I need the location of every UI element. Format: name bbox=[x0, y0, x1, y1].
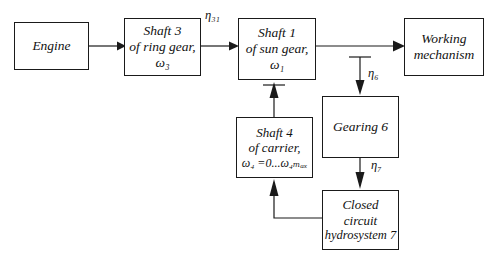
shaft-4-label-line-2: of carrier, bbox=[249, 140, 301, 155]
shaft-1-label-line-2: of sun gear, bbox=[246, 41, 309, 57]
link-hydrosystem-7-to-shaft-4 bbox=[270, 179, 323, 218]
gearing-6-label-line-1: Gearing 6 bbox=[333, 119, 388, 135]
gearing-6: Gearing 6 bbox=[322, 96, 399, 158]
link-shaft-1-to-working-mechanism bbox=[316, 41, 405, 52]
shaft-1-label-line-3: ω₁ bbox=[270, 57, 284, 73]
efficiency-eta-7-label: η₇ bbox=[371, 158, 382, 173]
shaft-1-label-line-1: Shaft 1 bbox=[258, 25, 296, 41]
hydrosystem-7-label-line-2: circuit bbox=[344, 213, 377, 228]
link-shaft-4-to-shaft-1 bbox=[263, 82, 285, 117]
working-mechanism-label-line-2: mechanism bbox=[414, 47, 475, 63]
shaft-4-carrier: Shaft 4 of carrier, ω₄ =0...ω₄ₘₐₓ bbox=[236, 117, 313, 178]
engine: Engine bbox=[14, 22, 89, 70]
shaft-3-label-line-2: of ring gear, bbox=[129, 39, 195, 55]
working-mechanism: Working mechanism bbox=[404, 18, 484, 76]
shaft-1-sun-gear: Shaft 1 of sun gear, ω₁ bbox=[238, 18, 316, 80]
shaft-4-label-line-1: Shaft 4 bbox=[256, 125, 292, 140]
block-diagram: Engine Shaft 3 of ring gear, ω₃ Shaft 1 … bbox=[0, 0, 493, 257]
link-engine-to-shaft-3 bbox=[89, 42, 126, 51]
link-gearing-6-to-hydrosystem-7 bbox=[356, 158, 365, 189]
link-shaft-3-to-shaft-1 bbox=[201, 42, 239, 51]
hydrosystem-7-label-line-1: Closed bbox=[342, 197, 378, 212]
hydrosystem-7-label-line-3: hydrosystem 7 bbox=[325, 228, 396, 243]
shaft-4-label-line-3: ω₄ =0...ω₄ₘₐₓ bbox=[242, 156, 308, 170]
closed-circuit-hydrosystem-7: Closed circuit hydrosystem 7 bbox=[322, 190, 399, 250]
working-mechanism-label-line-1: Working bbox=[421, 31, 466, 47]
engine-label-line-1: Engine bbox=[32, 38, 70, 54]
shaft-3-ring-gear: Shaft 3 of ring gear, ω₃ bbox=[124, 18, 201, 76]
shaft-3-label-line-1: Shaft 3 bbox=[144, 23, 182, 39]
efficiency-eta-31-label: η₃₁ bbox=[205, 8, 220, 23]
shaft-3-label-line-3: ω₃ bbox=[155, 55, 169, 71]
efficiency-eta-6-label: η₆ bbox=[368, 66, 379, 81]
